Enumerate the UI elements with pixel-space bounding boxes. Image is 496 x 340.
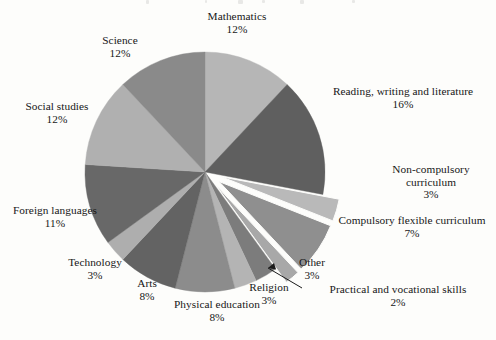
slice-label-compulsoryflexible-name: Compulsory flexible curriculum <box>338 214 485 226</box>
slice-label-reading: Reading, writing and literature 16% <box>318 85 488 110</box>
slice-label-socialstudies-pct: 12% <box>10 113 104 126</box>
slice-label-technology-pct: 3% <box>52 269 138 282</box>
slice-label-science-pct: 12% <box>86 47 154 60</box>
slice-label-technology: Technology 3% <box>52 256 138 281</box>
slice-label-mathematics-pct: 12% <box>182 23 292 36</box>
slice-label-mathematics: Mathematics 12% <box>182 10 292 35</box>
slice-label-arts-name: Arts <box>137 277 157 289</box>
slice-label-arts-pct: 8% <box>125 290 169 303</box>
slice-label-foreignlanguages-name: Foreign languages <box>13 204 97 216</box>
slice-label-physicaleducation-name: Physical education <box>174 298 260 310</box>
slice-label-compulsoryflexible-pct: 7% <box>330 227 494 240</box>
slice-label-other-name: Other <box>299 256 325 268</box>
pie-chart-figure: Mathematics 12% Reading, writing and lit… <box>0 0 496 340</box>
slice-label-physicaleducation-pct: 8% <box>156 311 278 324</box>
slice-label-science-name: Science <box>102 34 137 46</box>
slice-label-practical-pct: 2% <box>306 296 490 309</box>
slice-label-practical-name: Practical and vocational skills <box>330 283 467 295</box>
slice-label-practical: Practical and vocational skills 2% <box>306 283 490 308</box>
slice-label-foreignlanguages-pct: 11% <box>2 217 108 230</box>
slice-label-socialstudies: Social studies 12% <box>10 100 104 125</box>
slice-label-religion-name: Religion <box>249 281 288 293</box>
slice-label-socialstudies-name: Social studies <box>25 100 88 112</box>
slice-label-foreignlanguages: Foreign languages 11% <box>2 204 108 229</box>
slice-label-noncompulsory-name: Non-compulsory curriculum <box>392 163 469 188</box>
slice-label-mathematics-name: Mathematics <box>208 10 267 22</box>
slice-label-science: Science 12% <box>86 34 154 59</box>
slice-label-physicaleducation: Physical education 8% <box>156 298 278 323</box>
slice-label-noncompulsory: Non-compulsory curriculum 3% <box>372 163 490 201</box>
slice-label-technology-name: Technology <box>68 256 122 268</box>
slice-label-other-pct: 3% <box>281 269 343 282</box>
slice-label-reading-name: Reading, writing and literature <box>333 85 473 97</box>
slice-label-noncompulsory-pct: 3% <box>372 188 490 201</box>
slice-label-reading-pct: 16% <box>318 98 488 111</box>
slice-label-compulsoryflexible: Compulsory flexible curriculum 7% <box>330 214 494 239</box>
slice-label-other: Other 3% <box>281 256 343 281</box>
